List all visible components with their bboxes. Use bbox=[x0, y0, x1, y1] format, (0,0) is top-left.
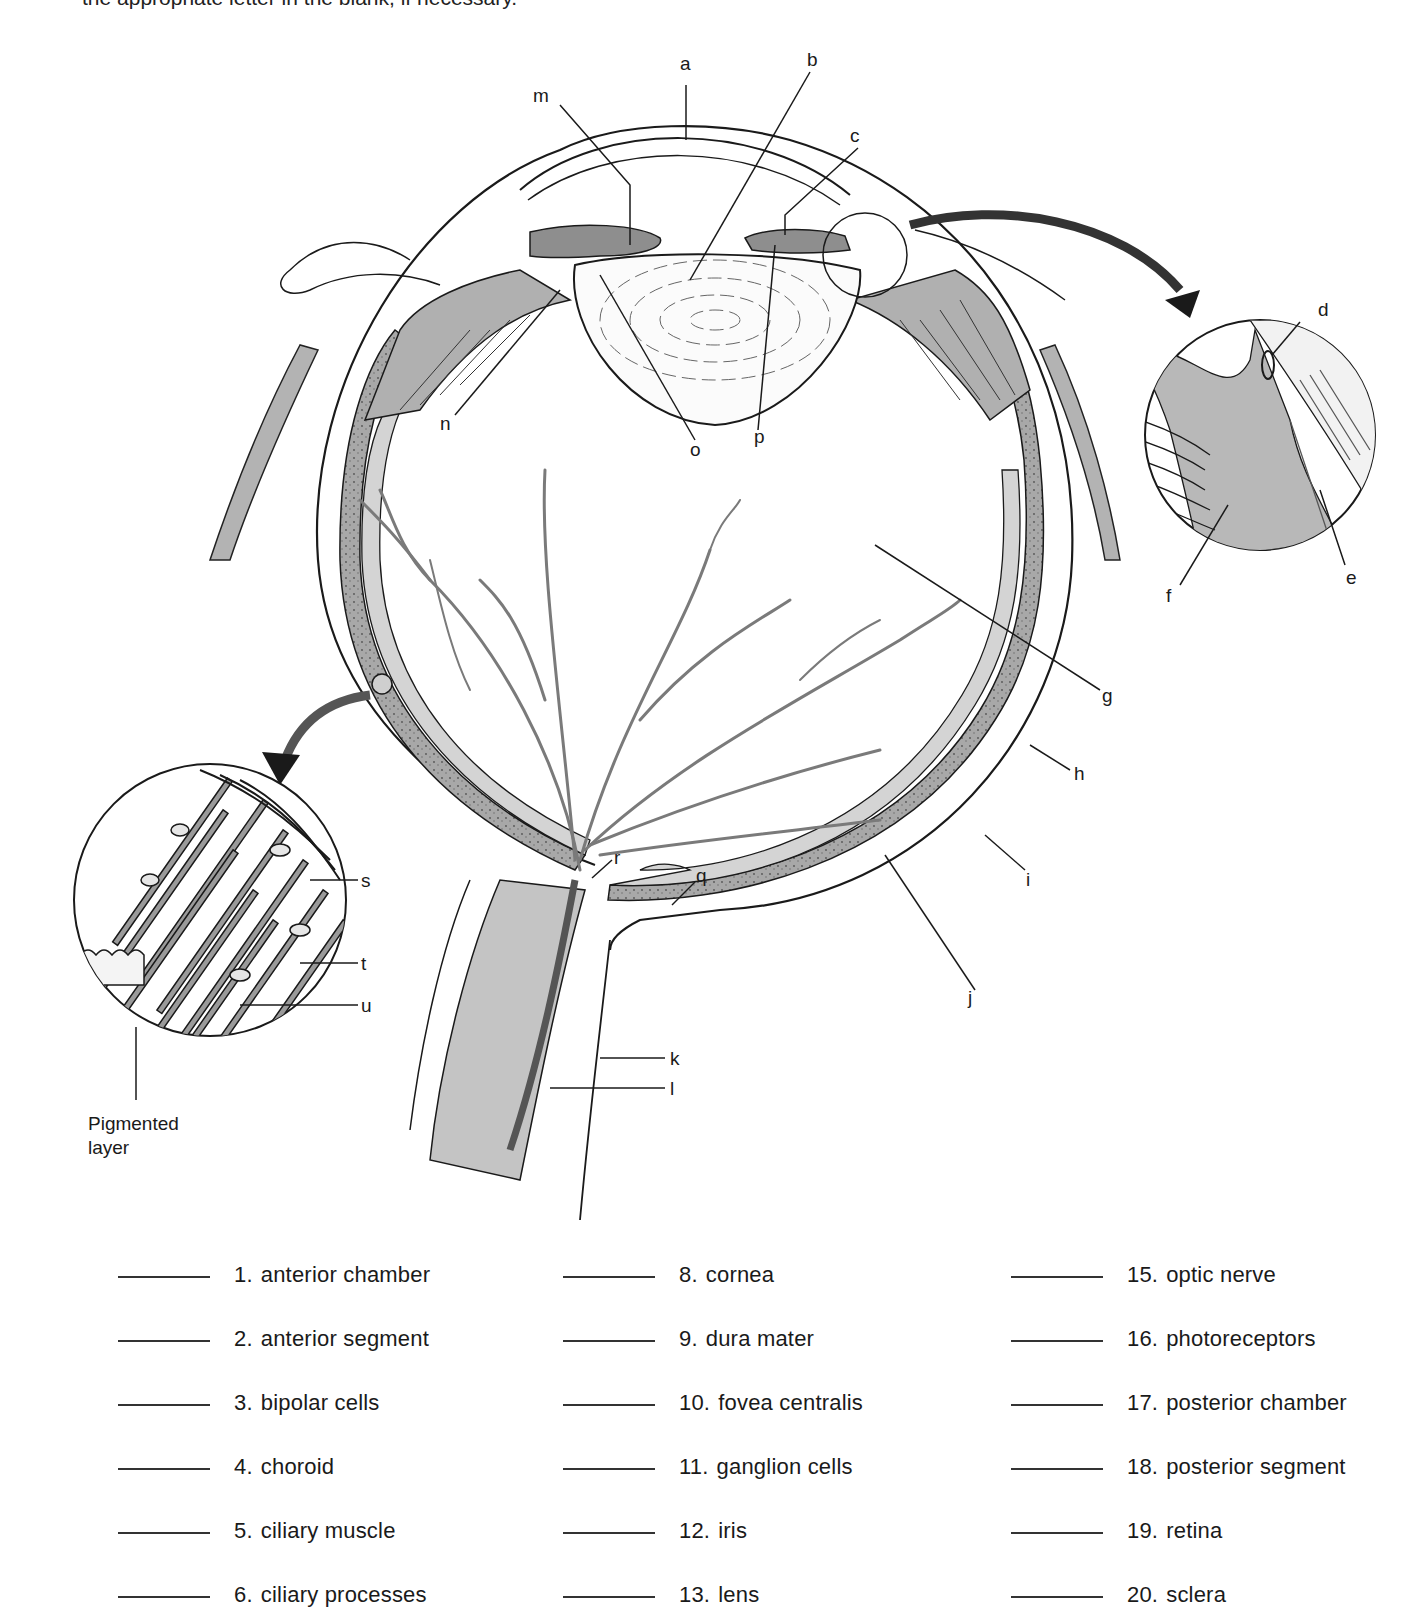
label-c: c bbox=[850, 125, 860, 146]
matching-item: 6. ciliary processes bbox=[118, 1582, 427, 1608]
eye-diagram: a b c d e f g h i j k l m n o p q r s t … bbox=[0, 0, 1412, 1230]
answer-blank[interactable] bbox=[563, 1339, 655, 1342]
answer-blank[interactable] bbox=[563, 1467, 655, 1470]
item-number: 10. bbox=[679, 1390, 710, 1416]
answer-blank[interactable] bbox=[1011, 1595, 1103, 1598]
matching-item: 4. choroid bbox=[118, 1454, 334, 1480]
item-term: choroid bbox=[261, 1454, 335, 1480]
item-number: 1. bbox=[234, 1262, 253, 1288]
item-number: 9. bbox=[679, 1326, 698, 1352]
item-number: 16. bbox=[1127, 1326, 1158, 1352]
answer-blank[interactable] bbox=[118, 1403, 210, 1406]
item-term: photoreceptors bbox=[1166, 1326, 1316, 1352]
label-n: n bbox=[440, 413, 451, 434]
item-number: 17. bbox=[1127, 1390, 1158, 1416]
matching-item: 15. optic nerve bbox=[1011, 1262, 1276, 1288]
angle-inset bbox=[1140, 320, 1380, 560]
answer-blank[interactable] bbox=[1011, 1275, 1103, 1278]
item-number: 18. bbox=[1127, 1454, 1158, 1480]
matching-item: 9. dura mater bbox=[563, 1326, 814, 1352]
matching-item: 11. ganglion cells bbox=[563, 1454, 853, 1480]
item-number: 11. bbox=[679, 1454, 709, 1480]
answer-blank[interactable] bbox=[563, 1595, 655, 1598]
item-term: sclera bbox=[1166, 1582, 1226, 1608]
item-term: retina bbox=[1166, 1518, 1222, 1544]
answer-blank[interactable] bbox=[1011, 1403, 1103, 1406]
matching-item: 16. photoreceptors bbox=[1011, 1326, 1316, 1352]
item-term: ciliary muscle bbox=[261, 1518, 396, 1544]
item-term: optic nerve bbox=[1166, 1262, 1276, 1288]
answer-blank[interactable] bbox=[118, 1467, 210, 1470]
item-number: 5. bbox=[234, 1518, 253, 1544]
answer-blank[interactable] bbox=[118, 1275, 210, 1278]
optic-nerve bbox=[410, 880, 610, 1220]
lens bbox=[574, 254, 860, 425]
label-h: h bbox=[1074, 763, 1085, 784]
matching-item: 12. iris bbox=[563, 1518, 747, 1544]
item-term: ganglion cells bbox=[717, 1454, 853, 1480]
item-number: 15. bbox=[1127, 1262, 1158, 1288]
answer-blank[interactable] bbox=[118, 1339, 210, 1342]
matching-item: 20. sclera bbox=[1011, 1582, 1226, 1608]
label-d: d bbox=[1318, 299, 1329, 320]
label-t: t bbox=[361, 953, 367, 974]
iris bbox=[530, 225, 850, 257]
label-s: s bbox=[361, 870, 371, 891]
item-term: fovea centralis bbox=[718, 1390, 863, 1416]
label-e: e bbox=[1346, 567, 1357, 588]
item-term: dura mater bbox=[706, 1326, 814, 1352]
matching-item: 1. anterior chamber bbox=[118, 1262, 430, 1288]
answer-blank[interactable] bbox=[118, 1531, 210, 1534]
label-k: k bbox=[670, 1048, 680, 1069]
extraocular-right bbox=[1040, 345, 1120, 560]
matching-item: 17. posterior chamber bbox=[1011, 1390, 1347, 1416]
matching-item: 5. ciliary muscle bbox=[118, 1518, 396, 1544]
label-o: o bbox=[690, 439, 701, 460]
zoom-source-retina bbox=[372, 674, 392, 694]
matching-item: 10. fovea centralis bbox=[563, 1390, 863, 1416]
retina-cells-inset bbox=[74, 764, 348, 1104]
item-number: 19. bbox=[1127, 1518, 1158, 1544]
label-q: q bbox=[696, 865, 707, 886]
matching-item: 19. retina bbox=[1011, 1518, 1222, 1544]
item-term: lens bbox=[718, 1582, 759, 1608]
extraocular-left bbox=[210, 345, 318, 560]
matching-list: 1. anterior chamber 2. anterior segment … bbox=[0, 1262, 1412, 1624]
item-term: anterior chamber bbox=[261, 1262, 431, 1288]
item-term: bipolar cells bbox=[261, 1390, 380, 1416]
label-a: a bbox=[680, 53, 691, 74]
matching-item: 3. bipolar cells bbox=[118, 1390, 380, 1416]
item-number: 20. bbox=[1127, 1582, 1158, 1608]
answer-blank[interactable] bbox=[563, 1403, 655, 1406]
item-term: posterior chamber bbox=[1166, 1390, 1347, 1416]
item-term: anterior segment bbox=[261, 1326, 429, 1352]
answer-blank[interactable] bbox=[1011, 1339, 1103, 1342]
matching-item: 18. posterior segment bbox=[1011, 1454, 1346, 1480]
answer-blank[interactable] bbox=[1011, 1531, 1103, 1534]
label-u: u bbox=[361, 995, 372, 1016]
item-number: 13. bbox=[679, 1582, 710, 1608]
sclera bbox=[317, 126, 1072, 950]
answer-blank[interactable] bbox=[563, 1531, 655, 1534]
label-r: r bbox=[614, 847, 621, 868]
pigmented-layer-label-2: layer bbox=[88, 1137, 130, 1158]
item-number: 12. bbox=[679, 1518, 710, 1544]
label-i: i bbox=[1026, 869, 1030, 890]
label-b: b bbox=[807, 49, 818, 70]
answer-blank[interactable] bbox=[118, 1595, 210, 1598]
item-term: posterior segment bbox=[1166, 1454, 1346, 1480]
item-term: iris bbox=[718, 1518, 747, 1544]
item-term: cornea bbox=[706, 1262, 774, 1288]
item-term: ciliary processes bbox=[261, 1582, 427, 1608]
label-j: j bbox=[967, 987, 972, 1008]
matching-item: 8. cornea bbox=[563, 1262, 774, 1288]
item-number: 8. bbox=[679, 1262, 698, 1288]
zoom-source-angle bbox=[823, 213, 907, 297]
label-f: f bbox=[1166, 585, 1172, 606]
answer-blank[interactable] bbox=[1011, 1467, 1103, 1470]
label-m: m bbox=[533, 85, 549, 106]
arrow-to-left-inset bbox=[262, 695, 370, 785]
item-number: 3. bbox=[234, 1390, 253, 1416]
item-number: 4. bbox=[234, 1454, 253, 1480]
answer-blank[interactable] bbox=[563, 1275, 655, 1278]
